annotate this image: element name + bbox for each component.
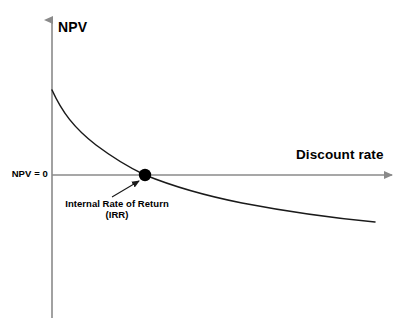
irr-annotation-line-1: Internal Rate of Return [65,198,169,209]
irr-point-marker [139,169,151,181]
x-axis-title: Discount rate [296,147,384,163]
npv-zero-axis-label: NPV = 0 [0,169,48,180]
irr-annotation: Internal Rate of Return (IRR) [52,199,182,221]
npv-irr-chart-figure: NPV Discount rate NPV = 0 Internal Rate … [0,0,409,325]
irr-annotation-line-2: (IRR) [52,210,182,221]
y-axis-title: NPV [58,19,87,35]
irr-pointer-arrow [112,181,139,197]
